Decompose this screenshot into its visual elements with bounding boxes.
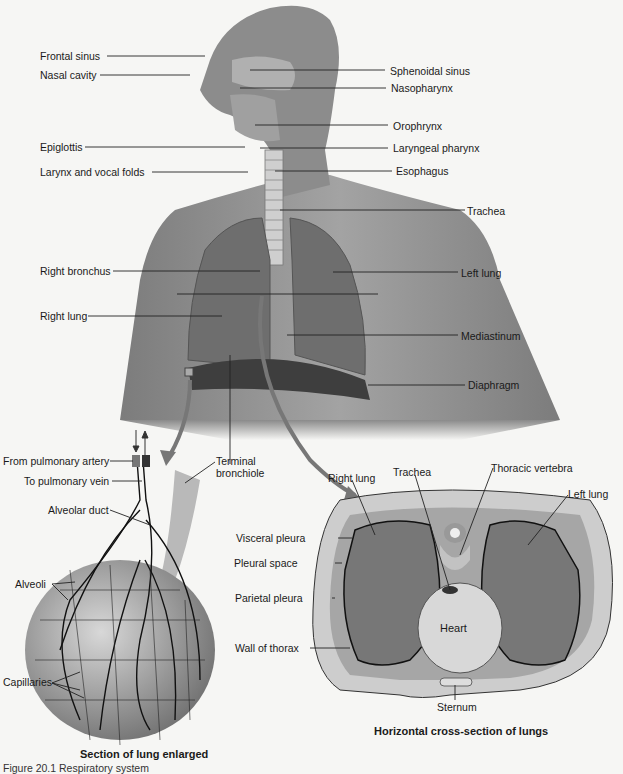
label-nasopharynx: Nasopharynx — [391, 82, 453, 94]
torso-figure — [120, 6, 560, 440]
label-frontal-sinus: Frontal sinus — [40, 50, 100, 62]
label-thoracic-vertebra: Thoracic vertebra — [491, 462, 573, 474]
label-right-lung: Right lung — [40, 310, 87, 322]
thorax-cross-section — [313, 490, 613, 698]
label-capillaries: Capillaries — [3, 676, 52, 688]
label-terminal-bronchiole-line2: bronchiole — [216, 467, 264, 479]
label-cs-trachea: Trachea — [393, 466, 431, 478]
label-sphenoidal-sinus: Sphenoidal sinus — [390, 65, 470, 77]
label-wall-of-thorax: Wall of thorax — [235, 642, 299, 654]
label-pleural-space: Pleural space — [234, 557, 298, 569]
cross-section-title: Horizontal cross-section of lungs — [374, 725, 548, 737]
label-to-pulmonary-vein: To pulmonary vein — [24, 475, 109, 487]
label-esophagus: Esophagus — [396, 165, 449, 177]
label-alveolar-duct: Alveolar duct — [48, 504, 109, 516]
label-right-bronchus: Right bronchus — [40, 265, 111, 277]
label-parietal-pleura: Parietal pleura — [235, 592, 303, 604]
label-cs-left-lung: Left lung — [568, 488, 608, 500]
label-heart: Heart — [440, 622, 467, 634]
label-nasal-cavity: Nasal cavity — [40, 69, 97, 81]
label-orophrynx: Orophrynx — [393, 120, 442, 132]
label-epiglottis: Epiglottis — [40, 141, 83, 153]
label-left-lung: Left lung — [461, 267, 501, 279]
label-laryngeal-pharynx: Laryngeal pharynx — [393, 142, 479, 154]
label-cs-right-lung: Right lung — [328, 472, 375, 484]
label-trachea: Trachea — [467, 205, 505, 217]
label-terminal-bronchiole-line1: Terminal — [216, 455, 256, 467]
label-alveoli: Alveoli — [15, 578, 46, 590]
label-diaphragm: Diaphragm — [468, 379, 519, 391]
label-larynx-vocal-folds: Larynx and vocal folds — [40, 166, 144, 178]
label-mediastinum: Mediastinum — [461, 330, 521, 342]
label-visceral-pleura: Visceral pleura — [236, 532, 305, 544]
figure-caption: Figure 20.1 Respiratory system — [3, 762, 149, 774]
label-sternum: Sternum — [437, 701, 477, 713]
section-lung-title: Section of lung enlarged — [80, 748, 208, 760]
label-from-pulmonary-artery: From pulmonary artery — [3, 455, 109, 467]
